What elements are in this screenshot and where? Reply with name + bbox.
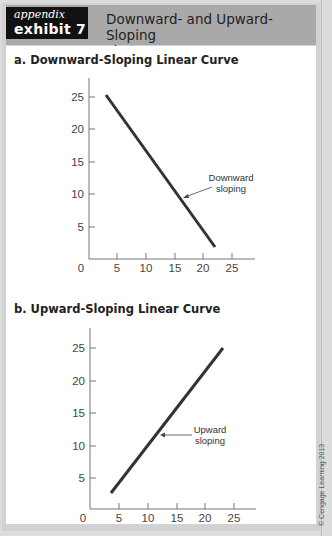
chart-a-xtick: 10 bbox=[140, 262, 153, 274]
chart-b-xtick: 15 bbox=[171, 512, 184, 524]
chart-a-xtick: 0 bbox=[78, 262, 84, 274]
chart-b-xtick: 5 bbox=[116, 512, 122, 524]
chart-a-ytick: 15 bbox=[71, 156, 84, 168]
chart-a-line bbox=[106, 95, 215, 247]
charts-svg: 25 20 15 10 5 0 5 10 15 20 25 Downward s… bbox=[0, 0, 332, 536]
chart-a-ytick: 20 bbox=[71, 123, 84, 135]
chart-a-xtick: 20 bbox=[197, 262, 210, 274]
chart-a-ytick: 5 bbox=[78, 221, 84, 233]
chart-a-annotation: sloping bbox=[216, 183, 246, 194]
chart-a-annotation-arrow bbox=[185, 187, 212, 197]
chart-b-xtick: 25 bbox=[228, 512, 241, 524]
chart-a-xtick: 15 bbox=[169, 262, 182, 274]
chart-a: 25 20 15 10 5 0 5 10 15 20 25 Downward s… bbox=[71, 78, 255, 274]
chart-b-ytick: 25 bbox=[72, 342, 85, 354]
chart-b-ytick: 15 bbox=[72, 407, 85, 419]
chart-b: 25 20 15 10 5 0 5 10 15 20 25 Upward slo… bbox=[72, 328, 256, 524]
chart-b-xtick: 10 bbox=[142, 512, 155, 524]
chart-b-xtick: 20 bbox=[199, 512, 212, 524]
chart-b-ytick: 10 bbox=[72, 440, 85, 452]
copyright-notice: © Cengage Learning 2013 bbox=[318, 444, 325, 526]
chart-b-ytick: 5 bbox=[79, 472, 85, 484]
chart-b-ytick: 20 bbox=[72, 375, 85, 387]
chart-a-ytick: 25 bbox=[71, 91, 84, 103]
chart-b-xtick: 0 bbox=[80, 512, 86, 524]
arrowhead-icon bbox=[183, 194, 189, 198]
chart-b-line bbox=[111, 348, 223, 493]
chart-a-xtick: 5 bbox=[114, 262, 120, 274]
chart-b-annotation: Upward bbox=[194, 424, 227, 435]
chart-a-xtick: 25 bbox=[226, 262, 239, 274]
chart-b-annotation: sloping bbox=[195, 435, 225, 446]
arrowhead-icon bbox=[160, 433, 165, 438]
chart-a-annotation: Downward bbox=[209, 172, 254, 183]
chart-a-ytick: 10 bbox=[71, 188, 84, 200]
